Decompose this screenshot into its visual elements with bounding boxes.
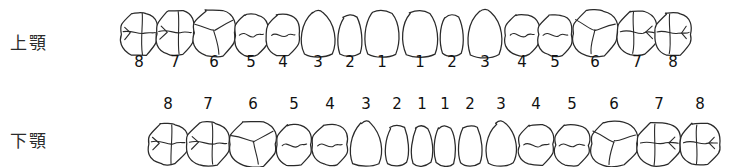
dental-chart: 上顎 8765432112345678 下顎 8765432112345678: [0, 0, 753, 167]
tooth-lower-right-5[interactable]: [276, 124, 311, 165]
tooth-number-upper-right-7: 7: [170, 53, 180, 71]
tooth-lower-right-6[interactable]: [229, 122, 276, 167]
upper-arch: 8765432112345678: [0, 0, 753, 84]
tooth-number-lower-left-1: 1: [440, 95, 450, 113]
tooth-number-upper-right-3: 3: [313, 53, 323, 71]
tooth-number-upper-left-7: 7: [632, 53, 642, 71]
tooth-lower-left-2[interactable]: [458, 126, 482, 166]
tooth-lower-right-3[interactable]: [350, 121, 381, 166]
tooth-lower-right-2[interactable]: [385, 125, 408, 166]
tooth-number-lower-left-7: 7: [654, 95, 664, 113]
tooth-lower-right-7[interactable]: [186, 122, 229, 166]
tooth-number-upper-right-2: 2: [345, 53, 355, 71]
tooth-number-lower-left-6: 6: [609, 95, 619, 113]
tooth-number-lower-left-2: 2: [465, 95, 475, 113]
tooth-number-lower-left-8: 8: [695, 95, 705, 113]
tooth-number-lower-right-5: 5: [289, 95, 299, 113]
tooth-number-lower-right-8: 8: [163, 95, 173, 113]
tooth-number-lower-left-3: 3: [496, 95, 506, 113]
tooth-number-lower-right-2: 2: [392, 95, 402, 113]
tooth-number-upper-left-1: 1: [415, 53, 425, 71]
tooth-number-upper-right-8: 8: [134, 53, 144, 71]
tooth-lower-right-4[interactable]: [312, 125, 348, 166]
tooth-lower-left-6[interactable]: [591, 121, 638, 167]
tooth-lower-right-1[interactable]: [411, 126, 432, 167]
tooth-number-lower-left-4: 4: [531, 95, 541, 113]
tooth-number-upper-right-4: 4: [278, 53, 288, 71]
tooth-number-lower-right-6: 6: [248, 95, 258, 113]
lower-tooth-number-row: 8765432112345678: [0, 84, 753, 106]
tooth-lower-left-4[interactable]: [518, 125, 553, 166]
tooth-number-upper-left-5: 5: [550, 53, 560, 71]
tooth-lower-right-8[interactable]: [148, 123, 188, 165]
tooth-number-upper-right-6: 6: [209, 53, 219, 71]
tooth-number-lower-right-1: 1: [417, 95, 427, 113]
tooth-lower-left-1[interactable]: [434, 126, 455, 167]
tooth-number-lower-right-4: 4: [325, 95, 335, 113]
tooth-number-upper-right-1: 1: [377, 53, 387, 71]
tooth-number-upper-right-5: 5: [246, 53, 256, 71]
tooth-number-lower-right-7: 7: [203, 95, 213, 113]
tooth-number-upper-left-4: 4: [517, 53, 527, 71]
tooth-number-upper-left-8: 8: [668, 53, 678, 71]
tooth-number-lower-right-3: 3: [361, 95, 371, 113]
tooth-number-lower-left-5: 5: [567, 95, 577, 113]
tooth-lower-left-7[interactable]: [637, 123, 681, 167]
lower-arch: 8765432112345678: [0, 84, 753, 167]
tooth-number-upper-left-6: 6: [590, 53, 600, 71]
upper-tooth-number-row: 8765432112345678: [0, 0, 753, 22]
tooth-number-upper-left-2: 2: [447, 53, 457, 71]
tooth-lower-left-5[interactable]: [554, 125, 590, 166]
tooth-lower-left-8[interactable]: [680, 123, 720, 165]
tooth-lower-left-3[interactable]: [486, 121, 516, 166]
tooth-number-upper-left-3: 3: [480, 53, 490, 71]
